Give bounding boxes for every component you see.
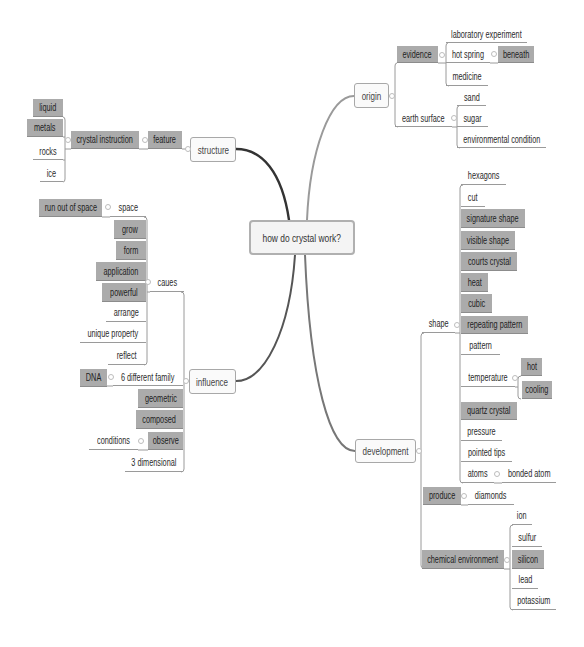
topic-ion[interactable]: ion	[512, 507, 532, 525]
topic-run-out-of-space[interactable]: run out of space	[39, 199, 102, 217]
topic-silicon[interactable]: silicon	[512, 550, 544, 569]
topic-pressure[interactable]: pressure	[461, 423, 502, 441]
collapse-toggle-icon[interactable]	[451, 115, 457, 121]
topic-potassium[interactable]: potassium	[512, 592, 556, 610]
topic-evidence[interactable]: evidence	[397, 46, 438, 63]
collapse-toggle-icon[interactable]	[491, 51, 497, 57]
topic-sulfur[interactable]: sulfur	[512, 529, 542, 547]
collapse-toggle-icon[interactable]	[461, 493, 467, 499]
topic-structure[interactable]: structure	[190, 137, 236, 162]
topic-earth-surface[interactable]: earth surface	[395, 110, 452, 127]
topic-metals[interactable]: metals	[27, 119, 63, 137]
topic-6-different-family[interactable]: 6 different family	[113, 369, 183, 386]
topic-label: rocks	[39, 146, 56, 157]
topic-dna[interactable]: DNA	[80, 369, 107, 387]
collapse-toggle-icon[interactable]	[138, 438, 144, 444]
topic-hexagons[interactable]: hexagons	[461, 167, 506, 185]
collapse-toggle-icon[interactable]	[185, 146, 191, 152]
topic-label: cut	[468, 192, 478, 203]
topic-label: signature shape	[467, 213, 519, 224]
topic-label: metals	[34, 122, 56, 133]
topic-chemical-environment[interactable]: chemical environment	[422, 550, 504, 569]
topic-environmental-condition[interactable]: environmental condition	[457, 131, 546, 148]
topic-label: lead	[518, 574, 532, 585]
topic-cut[interactable]: cut	[461, 189, 485, 207]
collapse-toggle-icon[interactable]	[439, 52, 445, 58]
topic-temperature[interactable]: temperature	[461, 369, 515, 387]
topic-pattern[interactable]: pattern	[461, 337, 500, 355]
topic-crystal-instruction[interactable]: crystal instruction	[71, 131, 139, 149]
topic-arrange[interactable]: arrange	[106, 304, 146, 322]
topic-label: chemical environment	[428, 554, 499, 565]
topic-lead[interactable]: lead	[512, 571, 538, 589]
topic-origin[interactable]: origin	[354, 83, 389, 108]
topic-visible-shape[interactable]: visible shape	[461, 231, 515, 250]
topic-sugar[interactable]: sugar	[457, 110, 488, 127]
topic-label: conditions	[97, 435, 130, 446]
topic-label: courts crystal	[467, 256, 510, 267]
topic-courts-crystal[interactable]: courts crystal	[461, 252, 517, 271]
topic-label: cubic	[468, 298, 485, 309]
topic-label: liquid	[39, 102, 56, 113]
topic-feature[interactable]: feature	[148, 131, 182, 149]
topic-laboratory-experiment[interactable]: laboratory experiment	[446, 26, 527, 43]
topic-heat[interactable]: heat	[461, 273, 488, 292]
topic-caues[interactable]: caues	[150, 274, 184, 292]
topic-shape[interactable]: shape	[422, 315, 455, 333]
collapse-toggle-icon[interactable]	[416, 448, 422, 454]
topic-repeating-pattern[interactable]: repeating pattern	[461, 316, 528, 334]
topic-label: silicon	[518, 554, 538, 565]
topic-development[interactable]: development	[355, 439, 416, 463]
topic-beneath[interactable]: beneath	[498, 46, 534, 63]
collapse-toggle-icon[interactable]	[108, 374, 114, 380]
topic-grow[interactable]: grow	[114, 220, 146, 239]
topic-quartz-crystal[interactable]: quartz crystal	[461, 402, 517, 420]
collapse-toggle-icon[interactable]	[105, 204, 111, 210]
collapse-toggle-icon[interactable]	[145, 279, 151, 285]
topic-label: produce	[429, 490, 455, 501]
topic-medicine[interactable]: medicine	[446, 68, 488, 86]
topic-pointed-tips[interactable]: pointed tips	[461, 444, 512, 462]
topic-atoms[interactable]: atoms	[461, 465, 494, 483]
topic-application[interactable]: application	[96, 262, 146, 281]
topic-geometric[interactable]: geometric	[138, 389, 183, 408]
topic-label: temperature	[468, 372, 507, 383]
central-topic[interactable]: how do crystal work?	[249, 220, 355, 255]
collapse-toggle-icon[interactable]	[65, 137, 71, 143]
topic-rocks[interactable]: rocks	[33, 143, 63, 160]
topic-cooling[interactable]: cooling	[522, 381, 552, 399]
collapse-toggle-icon[interactable]	[183, 378, 189, 384]
topic-3-dimensional[interactable]: 3 dimensional	[125, 454, 183, 472]
topic-label: powerful	[110, 287, 138, 298]
collapse-toggle-icon[interactable]	[504, 557, 510, 563]
topic-label: bonded atom	[508, 468, 551, 479]
topic-hot-spring[interactable]: hot spring	[446, 46, 490, 63]
topic-observe[interactable]: observe	[148, 432, 183, 450]
topic-label: shape	[429, 318, 449, 329]
topic-influence[interactable]: influence	[189, 369, 236, 394]
collapse-toggle-icon[interactable]	[389, 93, 395, 99]
collapse-toggle-icon[interactable]	[494, 471, 500, 477]
topic-conditions[interactable]: conditions	[89, 432, 138, 450]
topic-label: quartz crystal	[467, 405, 510, 416]
topic-sand[interactable]: sand	[457, 89, 486, 106]
topic-hot[interactable]: hot	[521, 358, 542, 376]
topic-unique-property[interactable]: unique property	[80, 325, 146, 343]
topic-liquid[interactable]: liquid	[33, 99, 63, 117]
topic-cubic[interactable]: cubic	[461, 294, 492, 313]
topic-signature-shape[interactable]: signature shape	[461, 209, 525, 228]
topic-powerful[interactable]: powerful	[102, 283, 146, 302]
topic-bonded-atom[interactable]: bonded atom	[502, 465, 556, 483]
collapse-toggle-icon[interactable]	[454, 322, 460, 328]
topic-label: pressure	[467, 426, 495, 437]
topic-label: influence	[196, 376, 228, 388]
topic-form[interactable]: form	[116, 241, 146, 260]
topic-reflect[interactable]: reflect	[108, 347, 146, 365]
collapse-toggle-icon[interactable]	[512, 375, 518, 381]
collapse-toggle-icon[interactable]	[142, 137, 148, 143]
topic-diamonds[interactable]: diamonds	[468, 487, 514, 505]
topic-composed[interactable]: composed	[136, 410, 183, 429]
topic-produce[interactable]: produce	[423, 487, 461, 505]
topic-ice[interactable]: ice	[40, 165, 63, 182]
topic-space[interactable]: space	[110, 199, 146, 217]
